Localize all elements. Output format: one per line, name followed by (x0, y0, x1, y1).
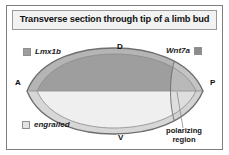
legend-label-engrailed: engrailed (34, 121, 70, 129)
axis-label-anterior: A (15, 79, 21, 87)
polarizing-region-annotation: polarizing region (155, 127, 213, 144)
legend-label-wnt7a: Wnt7a (166, 47, 190, 55)
legend-item-engrailed: engrailed (22, 121, 70, 129)
figure-title-bar: Transverse section through tip of a limb… (12, 10, 217, 30)
figure-frame: Transverse section through tip of a limb… (6, 5, 223, 150)
legend-item-lmx1b: Lmx1b (23, 48, 61, 56)
page-title: Transverse section through tip of a limb… (20, 15, 210, 24)
legend-swatch-icon-engrailed (22, 121, 30, 129)
legend-swatch-icon-lmx1b (23, 48, 31, 56)
legend-label-lmx1b: Lmx1b (35, 48, 61, 56)
axis-label-posterior: P (210, 79, 215, 87)
axis-label-ventral: V (118, 134, 123, 142)
polarizing-region-annotation-line2: region (155, 136, 213, 145)
legend-item-wnt7a: Wnt7a (166, 47, 202, 55)
axis-label-dorsal: D (117, 43, 123, 51)
legend-swatch-icon-wnt7a (194, 47, 202, 55)
